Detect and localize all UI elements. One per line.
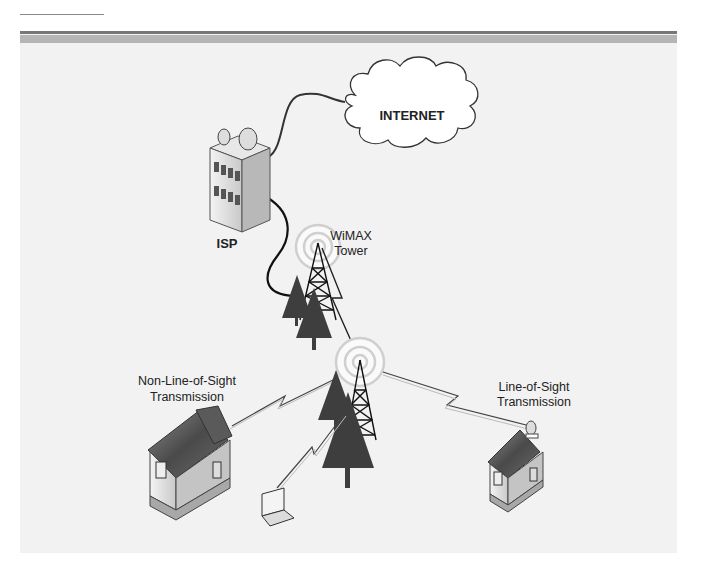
nlos-label-line2: Transmission bbox=[127, 390, 247, 405]
network-diagram bbox=[0, 0, 705, 574]
tower-label-line1: WiMAX bbox=[326, 229, 376, 244]
internet-cloud-icon bbox=[345, 57, 478, 147]
isp-internet-cable bbox=[268, 94, 345, 157]
los-label-line1: Line-of-Sight bbox=[484, 380, 584, 395]
internet-label: INTERNET bbox=[372, 108, 452, 123]
isp-label: ISP bbox=[212, 236, 242, 251]
tower-label-line2: Tower bbox=[326, 244, 376, 259]
tree-icon bbox=[282, 275, 332, 350]
los-house-icon bbox=[488, 421, 543, 512]
laptop-icon bbox=[262, 488, 294, 526]
los-label-line2: Transmission bbox=[484, 395, 584, 410]
isp-building-icon bbox=[210, 128, 270, 232]
nlos-label-line1: Non-Line-of-Sight bbox=[127, 374, 247, 389]
nlos-house-icon bbox=[148, 406, 232, 520]
isp-tower-cable bbox=[268, 198, 295, 296]
